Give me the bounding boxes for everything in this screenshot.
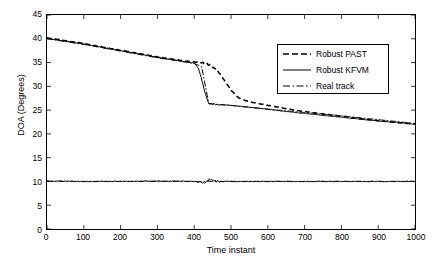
legend-label-2: Real track xyxy=(316,81,354,91)
x-tick-label: 700 xyxy=(285,232,325,242)
x-tick-label: 800 xyxy=(322,232,362,242)
x-tick-label: 0 xyxy=(26,232,66,242)
legend-box: Robust PAST Robust KFVM Real track xyxy=(277,44,389,94)
legend-sample-solid xyxy=(282,62,312,78)
legend-item-1: Robust KFVM xyxy=(278,62,390,78)
x-tick-label: 400 xyxy=(174,232,214,242)
y-tick-label: 40 xyxy=(2,34,42,43)
legend-sample-dashed xyxy=(282,46,312,62)
x-tick-label: 600 xyxy=(248,232,288,242)
y-tick-label: 10 xyxy=(2,178,42,187)
y-axis-label: DOA (Degrees) xyxy=(16,45,26,165)
legend-label-1: Robust KFVM xyxy=(316,65,369,75)
x-tick-label: 100 xyxy=(63,232,103,242)
x-tick-label: 300 xyxy=(137,232,177,242)
x-axis-tick-labels: 01002003004005006007008009001000 xyxy=(46,232,416,246)
x-tick-label: 1000 xyxy=(396,232,436,242)
legend-item-0: Robust PAST xyxy=(278,46,390,62)
x-tick-label: 200 xyxy=(100,232,140,242)
legend-sample-dashdot xyxy=(282,78,312,94)
legend-item-2: Real track xyxy=(278,78,390,94)
x-tick-label: 500 xyxy=(211,232,251,242)
series-line xyxy=(47,179,415,183)
x-axis-label: Time instant xyxy=(46,245,416,255)
y-tick-label: 5 xyxy=(2,202,42,211)
y-tick-label: 45 xyxy=(2,10,42,19)
x-tick-label: 900 xyxy=(359,232,399,242)
legend-label-0: Robust PAST xyxy=(316,49,367,59)
chart-figure: 051015202530354045 010020030040050060070… xyxy=(0,0,439,273)
